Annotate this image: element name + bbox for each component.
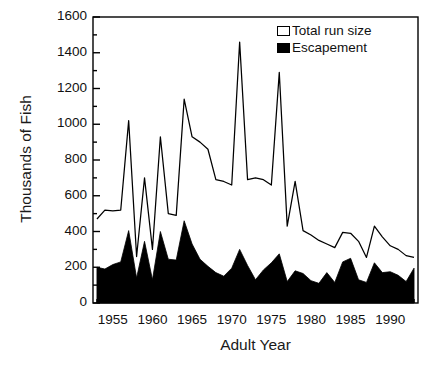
legend-swatch-filled-square-icon xyxy=(277,43,290,53)
chart-legend: Total run size Escapement xyxy=(277,22,372,56)
chart-figure: Thousands of Fish Adult Year 16001400120… xyxy=(0,0,433,365)
legend-item-escapement: Escapement xyxy=(277,39,372,56)
legend-label: Total run size xyxy=(292,23,372,39)
series-total-run-size-line xyxy=(97,42,414,257)
legend-label: Escapement xyxy=(292,40,367,56)
legend-swatch-open-square-icon xyxy=(277,26,290,36)
series-escapement-area xyxy=(97,221,414,303)
legend-item-total-run-size: Total run size xyxy=(277,22,372,39)
